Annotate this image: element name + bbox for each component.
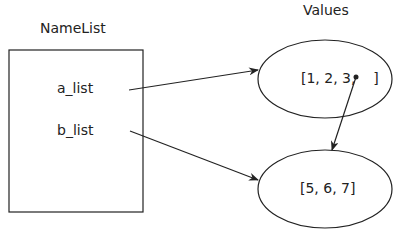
values-title: Values — [303, 2, 349, 18]
value-list-2: [5, 6, 7] — [300, 180, 355, 196]
value-list-1: [1, 2, 3, ] — [301, 70, 379, 86]
name-a-list: a_list — [57, 80, 93, 96]
name-b-list: b_list — [57, 122, 93, 138]
arrow-a-list — [129, 70, 258, 90]
arrow-b-list — [130, 131, 258, 180]
arrow-nested-ref — [332, 77, 356, 150]
namelist-title: NameList — [40, 20, 106, 36]
